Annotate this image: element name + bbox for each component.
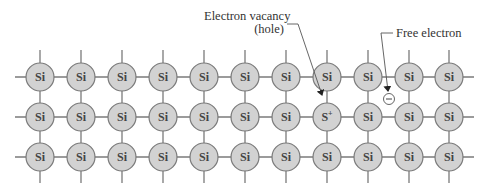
- atom-symbol: Si: [240, 150, 251, 164]
- atom-symbol: Si: [281, 110, 292, 124]
- silicon-atom: Si: [67, 63, 95, 91]
- atom-symbol: Si: [322, 70, 333, 84]
- atom-symbol: Si: [363, 70, 374, 84]
- atom-symbol: Si: [158, 110, 169, 124]
- atom-symbol: Si: [240, 110, 251, 124]
- atom-symbol: Si: [444, 150, 455, 164]
- atom-symbol: Si: [76, 70, 87, 84]
- atom-symbol: Si: [199, 150, 210, 164]
- silicon-atom: Si: [26, 63, 54, 91]
- silicon-atom: Si: [108, 143, 136, 171]
- silicon-lattice-diagram: SiSiSiSiSiSiSiSiSiSiSiSiSiSiSiSiSiSiS+Si…: [0, 0, 487, 193]
- silicon-atom: Si: [190, 63, 218, 91]
- lattice-canvas: SiSiSiSiSiSiSiSiSiSiSiSiSiSiSiSiSiSiS+Si…: [0, 0, 487, 193]
- atom-symbol: Si: [363, 110, 374, 124]
- atom-symbol: Si: [199, 110, 210, 124]
- silicon-atom: Si: [149, 103, 177, 131]
- atom-symbol: Si: [158, 70, 169, 84]
- atom-symbol: Si: [158, 150, 169, 164]
- ionized-atom: S+: [313, 103, 341, 131]
- atom-symbol: Si: [199, 70, 210, 84]
- atom-symbol: Si: [322, 150, 333, 164]
- hole-label-line2: (hole): [254, 22, 284, 36]
- atom-symbol: Si: [240, 70, 251, 84]
- silicon-atom: Si: [435, 143, 463, 171]
- silicon-atom: Si: [272, 103, 300, 131]
- silicon-atom: Si: [231, 103, 259, 131]
- silicon-atom: Si: [395, 143, 423, 171]
- silicon-atom: Si: [395, 103, 423, 131]
- hole-label-line1: Electron vacancy: [204, 9, 291, 23]
- atom-symbol: Si: [117, 110, 128, 124]
- free-electron-leader-arrow: [381, 33, 393, 91]
- free-electron-label: Free electron: [396, 26, 462, 40]
- atom-symbol: Si: [117, 150, 128, 164]
- silicon-atom: Si: [108, 103, 136, 131]
- silicon-atom: Si: [272, 143, 300, 171]
- atom-symbol: Si: [35, 110, 46, 124]
- silicon-atom: Si: [354, 143, 382, 171]
- silicon-atom: Si: [67, 143, 95, 171]
- silicon-atom: Si: [313, 143, 341, 171]
- atom-symbol: Si: [404, 70, 415, 84]
- silicon-atom: Si: [190, 143, 218, 171]
- atom-symbol: Si: [76, 110, 87, 124]
- silicon-atom: Si: [67, 103, 95, 131]
- atom-symbol: Si: [281, 70, 292, 84]
- atoms-layer: SiSiSiSiSiSiSiSiSiSiSiSiSiSiSiSiSiSiS+Si…: [26, 63, 463, 171]
- atom-symbol: Si: [35, 70, 46, 84]
- silicon-atom: Si: [435, 103, 463, 131]
- silicon-atom: Si: [272, 63, 300, 91]
- silicon-atom: Si: [26, 143, 54, 171]
- atom-symbol: Si: [117, 70, 128, 84]
- atom-symbol: Si: [35, 150, 46, 164]
- atom-symbol: Si: [444, 70, 455, 84]
- silicon-atom: Si: [108, 63, 136, 91]
- atom-symbol: Si: [363, 150, 374, 164]
- atom-symbol: Si: [76, 150, 87, 164]
- silicon-atom: Si: [231, 63, 259, 91]
- silicon-atom: Si: [231, 143, 259, 171]
- silicon-atom: Si: [190, 103, 218, 131]
- atom-symbol: Si: [404, 110, 415, 124]
- silicon-atom: Si: [354, 103, 382, 131]
- atom-symbol: Si: [281, 150, 292, 164]
- silicon-atom: Si: [149, 143, 177, 171]
- silicon-atom: Si: [313, 63, 341, 91]
- silicon-atom: Si: [26, 103, 54, 131]
- atom-symbol: Si: [444, 110, 455, 124]
- silicon-atom: Si: [395, 63, 423, 91]
- atom-symbol: Si: [404, 150, 415, 164]
- silicon-atom: Si: [149, 63, 177, 91]
- silicon-atom: Si: [354, 63, 382, 91]
- free-electron: [384, 94, 395, 105]
- silicon-atom: Si: [435, 63, 463, 91]
